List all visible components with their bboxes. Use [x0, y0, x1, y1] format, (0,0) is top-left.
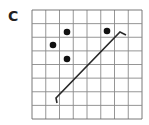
grid-lines — [32, 10, 142, 119]
line-segment — [56, 32, 126, 103]
grid-diagram — [0, 0, 149, 125]
point-dot — [50, 42, 57, 49]
point-dot — [64, 29, 71, 36]
point-dot — [64, 56, 71, 63]
dots — [50, 28, 111, 63]
point-dot — [104, 28, 111, 35]
diagonal-segment — [56, 32, 126, 103]
